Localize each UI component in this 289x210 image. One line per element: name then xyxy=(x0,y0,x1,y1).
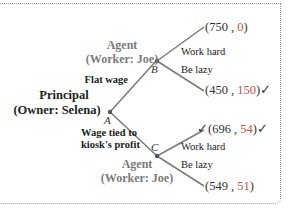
agent-b-label: Agent xyxy=(107,38,138,52)
b-be-lazy-label: Be lazy xyxy=(181,64,214,75)
agent-b-sublabel: (Worker: Joe) xyxy=(86,52,158,66)
b-work-hard-label: Work hard xyxy=(181,46,226,57)
payoff-worker: 54 xyxy=(240,122,253,136)
c-work-hard-label: Work hard xyxy=(181,141,226,152)
check-icon: ✓ xyxy=(260,83,271,97)
node-a-label: A xyxy=(103,114,111,126)
c-be-lazy-label: Be lazy xyxy=(181,159,214,170)
edge-flat-wage xyxy=(110,61,156,112)
payoff-c-work-hard: ✓(696 , 54)✓ xyxy=(197,122,268,136)
agent-c-label: Agent xyxy=(122,157,153,171)
payoff-c-be-lazy: (549 , 51) xyxy=(205,179,254,193)
payoff-worker: 51 xyxy=(237,179,250,193)
wage-tied-label-line1: Wage tied to xyxy=(81,127,137,138)
payoff-close: ) xyxy=(250,179,254,193)
payoff-worker: 150 xyxy=(237,83,256,97)
principal-label: Principal xyxy=(39,88,89,102)
check-icon: ✓ xyxy=(257,122,268,136)
wage-tied-label-line2: kiosk's profit xyxy=(81,139,141,150)
game-tree: A B C Principal (Owner: Selena) Flat wag… xyxy=(0,0,289,210)
flat-wage-label: Flat wage xyxy=(85,74,129,85)
payoff-owner: (696 , xyxy=(208,122,240,136)
payoff-b-be-lazy: (450 , 150)✓ xyxy=(205,83,271,97)
payoff-owner: (750 , xyxy=(205,20,237,34)
payoff-close: ) xyxy=(244,20,248,34)
agent-c-sublabel: (Worker: Joe) xyxy=(101,171,173,185)
check-icon: ✓ xyxy=(197,122,208,136)
node-c-label: C xyxy=(151,141,159,153)
payoff-owner: (450 , xyxy=(205,83,237,97)
principal-sublabel: (Owner: Selena) xyxy=(13,103,100,117)
node-c-dot xyxy=(155,154,159,158)
payoff-owner: (549 , xyxy=(205,179,237,193)
payoff-b-work-hard: (750 , 0) xyxy=(205,20,248,34)
